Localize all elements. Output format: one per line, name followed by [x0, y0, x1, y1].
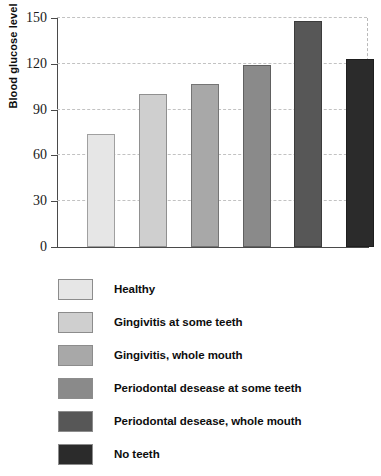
legend-swatch [58, 444, 93, 465]
bar [87, 134, 115, 247]
legend-item: Gingivitis, whole mouth [58, 342, 243, 368]
bar [346, 59, 374, 247]
y-tick-label-30: 30 [5, 194, 47, 208]
legend-swatch [58, 411, 93, 432]
chart-legend: HealthyGingivitis at some teethGingiviti… [0, 276, 381, 476]
legend-item: Gingivitis at some teeth [58, 309, 243, 335]
legend-label: Periodontal desease at some teeth [114, 382, 302, 394]
bar [191, 84, 219, 247]
plot-area [57, 18, 368, 247]
bar [294, 21, 322, 247]
y-tick-label-60: 60 [5, 148, 47, 162]
legend-label: Periodontal desease, whole mouth [114, 415, 302, 427]
legend-swatch [58, 378, 93, 399]
legend-swatch [58, 345, 93, 366]
legend-swatch [58, 312, 93, 333]
legend-label: Healthy [114, 283, 155, 295]
bar-chart-figure: Blood glucose level 0306090120150 [0, 0, 381, 268]
bar [243, 65, 271, 247]
y-tick-label-90: 90 [5, 103, 47, 117]
legend-item: Periodontal desease at some teeth [58, 375, 302, 401]
gridline-150 [57, 17, 367, 18]
bar [139, 94, 167, 247]
legend-item: No teeth [58, 441, 160, 467]
y-tick-label-150: 150 [5, 11, 47, 25]
y-tick-label-0: 0 [5, 240, 47, 254]
legend-label: Gingivitis, whole mouth [114, 349, 243, 361]
legend-item: Periodontal desease, whole mouth [58, 408, 302, 434]
legend-label: Gingivitis at some teeth [114, 316, 243, 328]
x-axis-line [57, 247, 369, 248]
legend-label: No teeth [114, 448, 160, 460]
legend-swatch [58, 279, 93, 300]
legend-item: Healthy [58, 276, 155, 302]
y-tick-label-120: 120 [5, 57, 47, 71]
